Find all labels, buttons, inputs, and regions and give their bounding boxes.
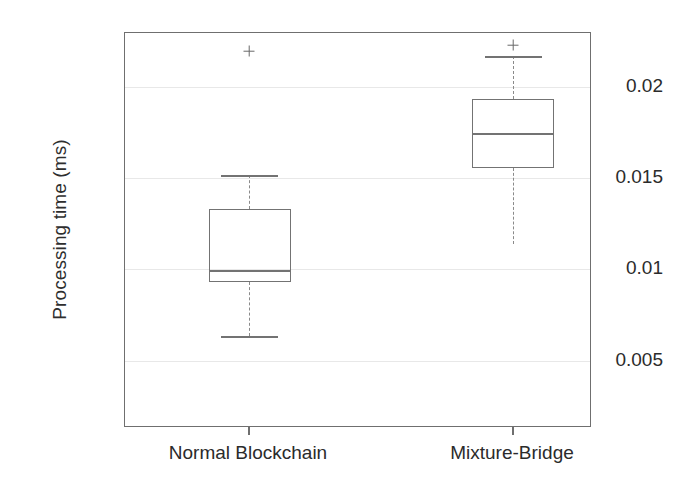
gridline-0.015 xyxy=(125,178,590,179)
whisker-upper-normal-blockchain xyxy=(249,175,250,209)
whisker-cap-upper-mixture-bridge xyxy=(485,56,542,58)
whisker-cap-lower-normal-blockchain xyxy=(221,336,278,338)
y-axis-title-text: Processing time (ms) xyxy=(49,139,71,319)
x-tick-mark-mixture-bridge xyxy=(512,427,514,435)
whisker-cap-upper-normal-blockchain xyxy=(221,175,278,177)
y-axis-title: Processing time (ms) xyxy=(40,0,80,493)
plot-area xyxy=(124,32,591,427)
median-mixture-bridge xyxy=(472,133,554,135)
x-tick-mark-normal-blockchain xyxy=(248,427,250,435)
whisker-lower-normal-blockchain xyxy=(249,282,250,336)
gridline-0.02 xyxy=(125,87,590,88)
gridline-0.005 xyxy=(125,361,590,362)
whisker-lower-mixture-bridge xyxy=(513,168,514,244)
x-tick-label-normal-blockchain: Normal Blockchain xyxy=(169,442,327,464)
median-normal-blockchain xyxy=(209,270,291,272)
x-tick-label-mixture-bridge: Mixture-Bridge xyxy=(450,442,574,464)
outlier-marker-mixture-bridge xyxy=(508,40,519,51)
gridline-0.01 xyxy=(125,269,590,270)
whisker-upper-mixture-bridge xyxy=(513,56,514,99)
outlier-marker-normal-blockchain xyxy=(244,46,255,57)
boxplot-figure: Processing time (ms) 0.02 0.015 0.01 0.0… xyxy=(0,0,673,493)
